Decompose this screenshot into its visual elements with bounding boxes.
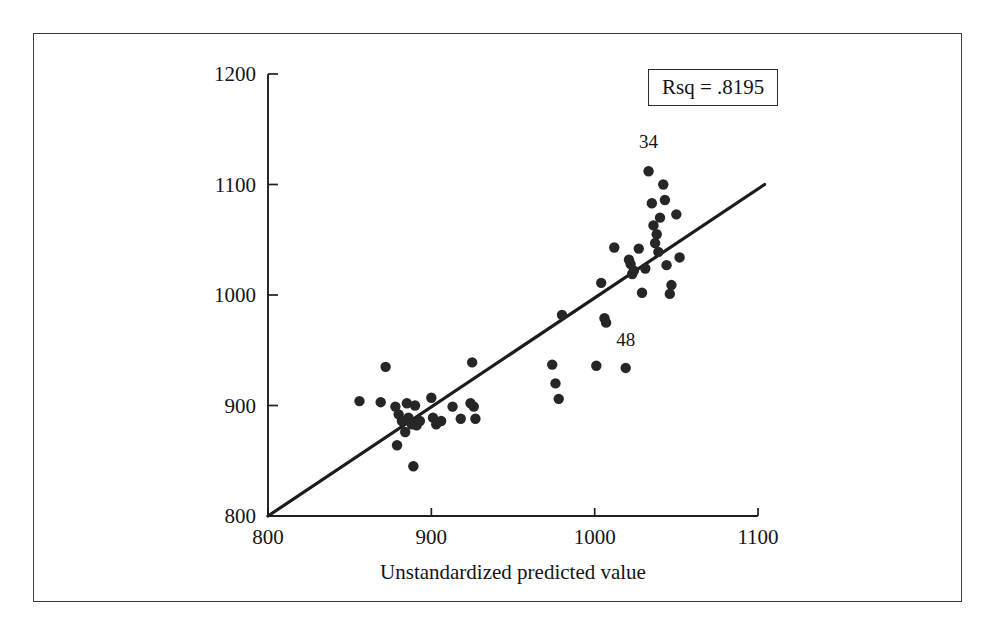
fit-line [268,185,765,517]
data-point [547,359,557,369]
y-tick-label: 1200 [214,62,256,86]
data-point [658,179,668,189]
data-point [660,195,670,205]
data-point [380,362,390,372]
data-point [426,393,436,403]
data-point [666,280,676,290]
x-axis-title: Unstandardized predicted value [380,560,646,584]
x-tick-label: 900 [416,525,448,549]
x-tick-label: 800 [252,525,284,549]
data-point [671,209,681,219]
data-point [408,461,418,471]
data-point [557,310,567,320]
data-points [354,166,685,471]
y-tick-label: 900 [225,394,257,418]
data-point [354,396,364,406]
point-label: 34 [639,131,659,152]
axes [268,74,758,516]
data-point [637,288,647,298]
data-point [661,260,671,270]
tick-labels: 80090010001100800900100011001200 [214,62,779,549]
x-tick-label: 1000 [574,525,616,549]
point-label: 48 [616,329,635,350]
data-point [392,440,402,450]
data-point [550,378,560,388]
rsq-text: Rsq = .8195 [662,75,764,99]
data-point [596,278,606,288]
data-point [410,400,420,410]
x-axis-title: Unstandardized predicted value [380,560,646,584]
data-point [647,198,657,208]
scatter-plot: 80090010001100800900100011001200 3448 Un… [0,0,993,637]
data-point [652,229,662,239]
y-tick-label: 1100 [215,173,256,197]
data-point [470,414,480,424]
data-point [655,212,665,222]
data-point [436,416,446,426]
data-point [376,397,386,407]
data-point [415,416,425,426]
data-point [400,427,410,437]
x-tick-label: 1100 [737,525,778,549]
data-point [591,361,601,371]
data-point [447,401,457,411]
data-point [469,401,479,411]
data-point [653,247,663,257]
data-point [650,238,660,248]
rsq-annotation-box: Rsq = .8195 [648,69,778,106]
data-point [467,357,477,367]
data-point [456,414,466,424]
data-point [601,317,611,327]
data-point [634,243,644,253]
data-point [609,242,619,252]
data-point [674,252,684,262]
data-point [665,289,675,299]
data-point [629,265,639,275]
y-tick-label: 1000 [214,283,256,307]
data-point [643,166,653,176]
data-point [640,263,650,273]
data-point [554,394,564,404]
regression-line [268,185,765,517]
y-tick-label: 800 [225,504,257,528]
data-point [621,363,631,373]
